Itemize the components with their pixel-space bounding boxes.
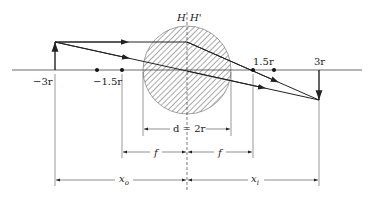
right-focal-label: 1.5r	[253, 56, 274, 67]
ball-lens-diagram: H H' −3r −1.5r 1.5r 3r d = 2r f f xo xi	[0, 0, 374, 198]
diameter-label: d = 2r	[173, 123, 206, 134]
focal-left-label: f	[153, 147, 160, 158]
dot-right-focal	[251, 68, 255, 72]
object-position-label: −3r	[33, 76, 53, 87]
dot-left-outer	[95, 68, 99, 72]
left-focal-label: −1.5r	[93, 76, 122, 87]
dot-right-outer	[272, 68, 276, 72]
principal-plane-h-label: H	[176, 12, 186, 23]
image-distance-subscript: i	[257, 179, 259, 187]
object-distance-label: xo	[119, 173, 129, 187]
image-distance-label: xi	[251, 173, 259, 187]
object-distance-subscript: o	[125, 179, 129, 187]
image-position-label: 3r	[314, 56, 325, 67]
focal-right-label: f	[217, 147, 224, 158]
principal-plane-h-prime-label: H'	[189, 12, 201, 23]
dot-left-focal	[120, 68, 124, 72]
